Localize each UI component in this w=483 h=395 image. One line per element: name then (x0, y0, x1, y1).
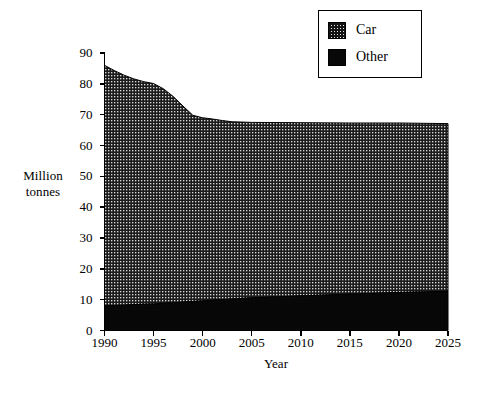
legend-label-other: Other (356, 49, 388, 65)
stacked-areas (105, 65, 449, 330)
chart-figure: Million tonnes 0102030405060708090 19901… (0, 0, 483, 395)
legend-swatch-other-icon (328, 49, 346, 66)
y-axis-tick-label: 0 (67, 324, 93, 337)
legend-item-car: Car (328, 20, 376, 40)
legend-item-other: Other (328, 47, 388, 67)
area-series-car (105, 65, 449, 305)
y-axis-tick-label: 20 (67, 262, 93, 275)
y-axis-tick-label: 90 (67, 46, 93, 59)
x-axis-title: Year (104, 356, 448, 372)
y-axis-title-line-2: tonnes (8, 184, 78, 200)
y-axis-tick-label: 70 (67, 108, 93, 121)
y-axis-tick-label: 30 (67, 231, 93, 244)
y-axis-tick-label: 80 (67, 77, 93, 90)
x-axis-tick-label: 1995 (132, 336, 176, 349)
x-axis-tick-label: 2005 (230, 336, 274, 349)
x-axis-tick-label: 1990 (83, 336, 127, 349)
chart-legend: Car Other (318, 10, 422, 78)
y-axis-tick-label: 60 (67, 139, 93, 152)
x-axis-tick-label: 2000 (181, 336, 225, 349)
legend-swatch-car-icon (328, 22, 346, 39)
x-axis-tick-label: 2020 (377, 336, 421, 349)
x-axis-tick-label: 2015 (328, 336, 372, 349)
x-axis-tick-label: 2010 (279, 336, 323, 349)
y-axis-tick-label: 40 (67, 200, 93, 213)
x-axis-tick-label: 2025 (426, 336, 470, 349)
y-axis-tick-label: 10 (67, 293, 93, 306)
legend-label-car: Car (356, 22, 376, 38)
y-axis-tick-label: 50 (67, 169, 93, 182)
